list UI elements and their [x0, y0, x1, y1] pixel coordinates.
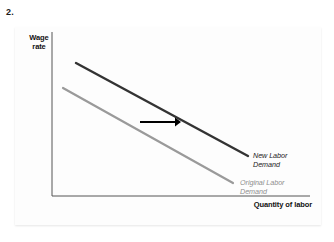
y-axis-label: Wage rate — [27, 33, 51, 52]
question-number: 2. — [6, 7, 14, 17]
y-axis-label-line2: rate — [27, 42, 51, 51]
new-labor-demand-label-line2: Demand — [253, 160, 287, 169]
x-axis-label: Quantity of labor — [222, 200, 312, 209]
y-axis-label-line1: Wage — [27, 33, 51, 42]
original-labor-demand-label: Original Labor Demand — [240, 178, 284, 197]
new-labor-demand-label-line1: New Labor — [253, 151, 287, 160]
new-labor-demand-label: New Labor Demand — [253, 151, 287, 170]
original-labor-demand-label-line2: Demand — [240, 187, 284, 196]
original-labor-demand-label-line1: Original Labor — [240, 178, 284, 187]
